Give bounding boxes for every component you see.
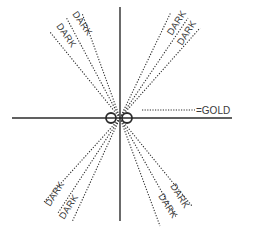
dark-beam-lower-right-inner <box>120 118 160 226</box>
gold-dark-diagram: =GOLD DARKDARKDARKDARKDARKDARKDARKDARK <box>0 0 257 245</box>
gold-legend-label: =GOLD <box>196 105 230 116</box>
dark-label: DARK <box>70 9 95 38</box>
dark-label: DARK <box>54 21 79 50</box>
dark-beam-upper-right-inner <box>120 12 171 118</box>
dark-beam-upper-right-mid <box>120 18 188 118</box>
dark-beam-upper-left-outer <box>50 32 120 118</box>
dark-label: DARK <box>56 192 80 221</box>
dark-beam-lower-left-inner <box>72 118 120 222</box>
dark-beam-upper-right-outer <box>120 28 200 118</box>
